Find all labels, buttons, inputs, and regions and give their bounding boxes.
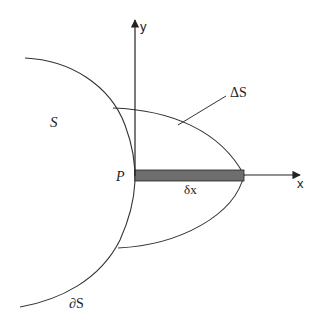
strip-width-label: δx	[184, 182, 197, 197]
y-axis-label: y	[140, 19, 147, 34]
x-axis-label: x	[297, 176, 304, 191]
delta-s-upper-curve	[113, 108, 244, 175]
delta-s-lower-curve	[118, 175, 244, 248]
delta-s-leader-line	[178, 96, 226, 125]
diagram-canvas: y x S ΔS P δx ∂S	[0, 0, 319, 323]
boundary-label: ∂S	[69, 296, 84, 311]
point-p-label: P	[115, 169, 125, 184]
strip	[135, 170, 244, 181]
region-delta-s-label: ΔS	[230, 85, 247, 100]
region-s-label: S	[50, 114, 58, 130]
